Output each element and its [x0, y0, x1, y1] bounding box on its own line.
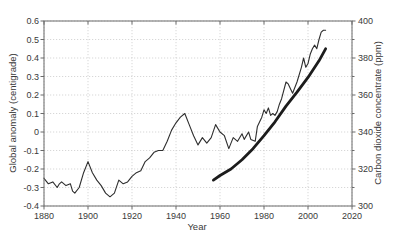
- svg-text:400: 400: [358, 16, 373, 26]
- x-axis-label: Year: [187, 221, 206, 232]
- plot-area: 188019001920194019601980200020200.60.50.…: [0, 0, 396, 252]
- tick-labels: 188019001920194019601980200020200.60.50.…: [23, 16, 373, 221]
- gridlines: [44, 21, 352, 206]
- y-axis-label-left: Global anomaly (centigrade): [7, 53, 18, 172]
- svg-text:1880: 1880: [34, 211, 54, 221]
- svg-text:1920: 1920: [122, 211, 142, 221]
- svg-text:300: 300: [358, 201, 373, 211]
- svg-text:0.6: 0.6: [26, 16, 39, 26]
- svg-text:0.1: 0.1: [26, 109, 39, 119]
- svg-text:0: 0: [34, 127, 39, 137]
- svg-text:-0.2: -0.2: [23, 164, 39, 174]
- axis-ticks: [41, 21, 356, 210]
- svg-text:2020: 2020: [342, 211, 362, 221]
- svg-text:0.2: 0.2: [26, 90, 39, 100]
- svg-text:1940: 1940: [166, 211, 186, 221]
- chart-figure: 188019001920194019601980200020200.60.50.…: [0, 0, 396, 252]
- svg-text:2000: 2000: [298, 211, 318, 221]
- y-axis-label-right: Carbon dioxide concentrate (ppm): [372, 41, 383, 185]
- svg-text:1980: 1980: [254, 211, 274, 221]
- svg-text:0.4: 0.4: [26, 53, 39, 63]
- svg-text:-0.1: -0.1: [23, 146, 39, 156]
- svg-text:1960: 1960: [210, 211, 230, 221]
- svg-text:-0.3: -0.3: [23, 183, 39, 193]
- svg-text:0.5: 0.5: [26, 35, 39, 45]
- svg-text:1900: 1900: [78, 211, 98, 221]
- svg-text:0.3: 0.3: [26, 72, 39, 82]
- svg-text:-0.4: -0.4: [23, 201, 39, 211]
- carbon-dioxide-concentration-line: [213, 49, 325, 180]
